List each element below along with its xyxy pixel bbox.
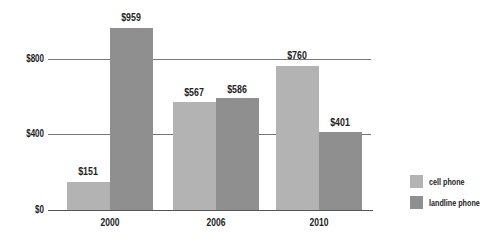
x-label-2010: 2010 — [298, 217, 341, 228]
value-label-landline-2000: $959 — [111, 11, 151, 23]
value-label-cell-2000: $151 — [68, 165, 108, 177]
x-label-2000: 2000 — [89, 217, 132, 228]
legend-item-cell-phone: cell phone — [410, 175, 474, 188]
legend-item-landline-phone: landline phone — [410, 196, 491, 209]
y-tick-800: $800 — [12, 53, 44, 64]
bar-cell-2000 — [67, 182, 110, 210]
value-label-landline-2006: $586 — [217, 83, 257, 95]
gridline-800 — [48, 59, 371, 60]
value-label-landline-2010: $401 — [320, 116, 360, 128]
legend-swatch-cell-phone — [410, 175, 423, 188]
bar-landline-2000 — [110, 28, 153, 210]
bar-cell-2006 — [173, 102, 216, 210]
bar-landline-2006 — [216, 98, 259, 210]
legend-label-landline-phone: landline phone — [429, 198, 480, 208]
bar-landline-2010 — [319, 132, 362, 210]
legend-swatch-landline-phone — [410, 196, 423, 209]
x-label-2006: 2006 — [195, 217, 238, 228]
value-label-cell-2010: $760 — [277, 49, 317, 61]
y-tick-0: $0 — [12, 204, 44, 215]
x-axis-baseline — [48, 210, 373, 211]
legend-label-cell-phone: cell phone — [429, 177, 465, 187]
value-label-cell-2006: $567 — [174, 86, 214, 98]
bar-cell-2010 — [276, 66, 319, 210]
y-tick-400: $400 — [12, 128, 44, 139]
bar-chart: $800 $400 $0 $151 $959 $567 $586 $760 $4… — [0, 0, 491, 243]
